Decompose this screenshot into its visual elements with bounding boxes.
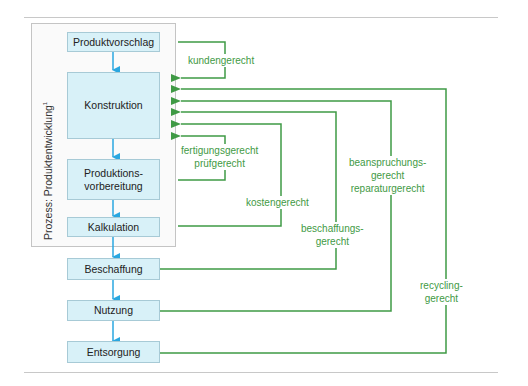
step-konstruktion: Konstruktion [67,72,160,139]
label-beanspruchungsgerecht-reparaturgerecht: beanspruchungs- gerecht reparaturgerecht [349,156,426,195]
step-kalkulation: Kalkulation [67,217,160,237]
label-kostengerecht: kostengerecht [246,196,309,209]
label-fertigungsgerecht-pruefgerecht: fertigungsgerecht prüfgerecht [181,144,258,170]
step-beschaffung: Beschaffung [67,258,160,280]
label-kundengerecht: kundengerecht [188,54,254,67]
label-recyclinggerecht: recycling- gerecht [420,279,463,305]
step-produktionsvorbereitung: Produktions- vorbereitung [67,159,160,200]
step-entsorgung: Entsorgung [67,341,160,363]
step-produktvorschlag: Produktvorschlag [67,32,160,52]
step-nutzung: Nutzung [67,300,160,321]
label-beschaffungsgerecht: beschaffungs- gerecht [301,222,364,248]
